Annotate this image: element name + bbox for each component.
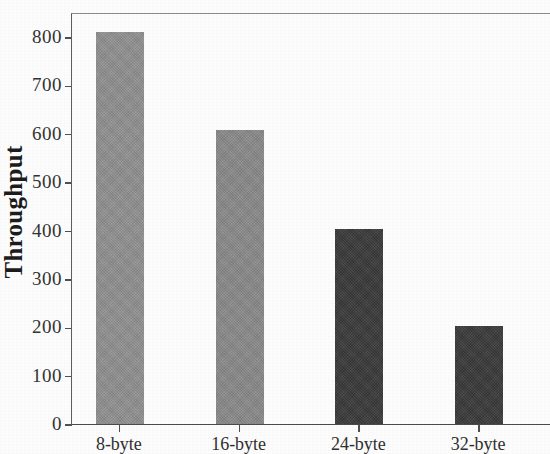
y-axis-tick-label: 400 <box>0 221 62 240</box>
y-axis-tick-label: 200 <box>0 317 62 336</box>
bar <box>216 130 264 424</box>
bar <box>455 326 503 424</box>
x-axis-tick-mark <box>358 425 359 432</box>
x-axis-tick-mark <box>478 425 479 432</box>
x-axis-tick-label: 8-byte <box>59 434 179 454</box>
bar <box>335 229 383 424</box>
y-axis-tick-label: 0 <box>0 414 62 433</box>
bar-texture <box>455 326 503 424</box>
bar-texture <box>216 130 264 424</box>
bar <box>96 32 144 424</box>
x-axis-tick-label: 32-byte <box>418 434 538 454</box>
bar-chart-figure: Throughput 0100200300400500600700800 8-b… <box>0 0 550 454</box>
bar-texture <box>335 229 383 424</box>
y-axis-tick-label: 300 <box>0 269 62 288</box>
y-axis-tick-label: 500 <box>0 172 62 191</box>
y-axis-tick-label: 800 <box>0 27 62 46</box>
y-axis-tick-label: 600 <box>0 124 62 143</box>
x-axis-tick-mark <box>119 425 120 432</box>
y-axis-tick-label: 100 <box>0 366 62 385</box>
x-axis-tick-label: 24-byte <box>298 434 418 454</box>
x-axis-tick-label: 16-byte <box>179 434 299 454</box>
bar-texture <box>96 32 144 424</box>
x-axis-tick-mark <box>239 425 240 432</box>
y-axis-tick-label: 700 <box>0 75 62 94</box>
plot-area <box>71 13 550 425</box>
